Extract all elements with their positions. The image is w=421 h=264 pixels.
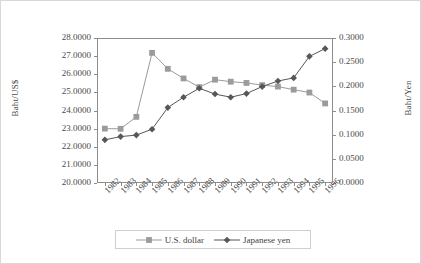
data-point-marker bbox=[322, 45, 329, 52]
data-point-marker bbox=[180, 94, 187, 101]
legend-item[interactable]: Japanese yen bbox=[214, 235, 290, 245]
y-axis-right-tick-label: 0.1000 bbox=[339, 130, 364, 139]
y-axis-right-title: Baht/Yen bbox=[403, 68, 413, 128]
data-point-marker bbox=[291, 87, 297, 93]
data-point-marker bbox=[118, 126, 124, 132]
y-axis-left-tick-label: 20.0000 bbox=[62, 178, 91, 187]
chart-container: Baht/US$ Baht/Yen 28.000027.000026.00002… bbox=[0, 0, 421, 264]
y-axis-right-tick-label: 0.2500 bbox=[339, 57, 364, 66]
y-axis-right-tick-label: 0.2000 bbox=[339, 81, 364, 90]
y-axis-right-tick-mark bbox=[333, 62, 336, 63]
data-point-marker bbox=[212, 77, 218, 83]
chart-legend: U.S. dollarJapanese yen bbox=[115, 230, 311, 249]
diamond-marker-icon bbox=[214, 235, 240, 245]
data-point-marker bbox=[165, 104, 172, 111]
data-point-marker bbox=[275, 84, 281, 90]
y-axis-left-tick-label: 23.0000 bbox=[62, 124, 91, 133]
y-axis-right-tick-label: 0.1500 bbox=[339, 106, 364, 115]
y-axis-right-tick-mark bbox=[333, 111, 336, 112]
y-axis-left-tick-label: 22.0000 bbox=[62, 142, 91, 151]
series-japanese-yen bbox=[102, 45, 329, 143]
square-marker-icon bbox=[136, 235, 162, 245]
data-point-marker bbox=[149, 50, 155, 56]
y-axis-left-tick-label: 27.0000 bbox=[62, 51, 91, 60]
data-point-marker bbox=[133, 114, 139, 120]
plot-series-layer bbox=[97, 38, 333, 183]
y-axis-right-tick-label: 0.3000 bbox=[339, 33, 364, 42]
data-point-marker bbox=[275, 78, 282, 85]
data-point-marker bbox=[307, 90, 313, 96]
y-axis-left-tick-label: 28.0000 bbox=[62, 33, 91, 42]
y-axis-right-tick-mark bbox=[333, 135, 336, 136]
y-axis-right-tick-mark bbox=[333, 159, 336, 160]
data-point-marker bbox=[181, 76, 187, 82]
y-axis-right-tick-label: 0.0000 bbox=[339, 178, 364, 187]
data-point-marker bbox=[228, 79, 234, 85]
data-point-marker bbox=[149, 126, 156, 133]
data-point-marker bbox=[244, 80, 250, 86]
data-point-marker bbox=[322, 101, 328, 107]
data-point-marker bbox=[212, 91, 219, 98]
data-point-marker bbox=[102, 126, 108, 132]
legend-item-label: Japanese yen bbox=[243, 235, 290, 245]
y-axis-left-tick-mark bbox=[94, 183, 97, 184]
data-point-marker bbox=[227, 94, 234, 101]
y-axis-left-tick-label: 21.0000 bbox=[62, 160, 91, 169]
y-axis-right-tick-label: 0.0500 bbox=[339, 154, 364, 163]
y-axis-right-tick-mark bbox=[333, 86, 336, 87]
legend-item-label: U.S. dollar bbox=[165, 235, 204, 245]
data-point-marker bbox=[306, 53, 313, 60]
y-axis-left-tick-label: 25.0000 bbox=[62, 87, 91, 96]
y-axis-left-title: Baht/US$ bbox=[10, 68, 20, 128]
data-point-marker bbox=[102, 137, 109, 144]
y-axis-left-tick-label: 26.0000 bbox=[62, 69, 91, 78]
y-axis-left-tick-label: 24.0000 bbox=[62, 106, 91, 115]
data-point-marker bbox=[165, 66, 171, 72]
legend-item[interactable]: U.S. dollar bbox=[136, 235, 204, 245]
data-point-marker bbox=[133, 132, 140, 139]
data-point-marker bbox=[117, 133, 124, 140]
y-axis-right-tick-mark bbox=[333, 38, 336, 39]
data-point-marker bbox=[243, 90, 250, 97]
